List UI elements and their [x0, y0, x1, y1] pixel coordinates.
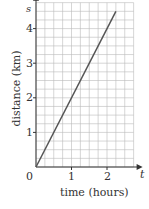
x-axis-symbol: t — [140, 168, 144, 181]
origin-label: 0 — [26, 170, 33, 183]
y-axis-symbol: s — [26, 3, 31, 14]
y-axis-label: distance (km) — [10, 50, 23, 126]
y-tick-2: 2 — [26, 91, 33, 104]
x-axis-label: time (hours) — [60, 186, 129, 199]
y-tick-4: 4 — [26, 22, 33, 35]
x-tick-2: 2 — [104, 170, 111, 183]
y-tick-1: 1 — [26, 126, 33, 139]
y-tick-3: 3 — [26, 57, 33, 70]
x-tick-1: 1 — [68, 170, 75, 183]
